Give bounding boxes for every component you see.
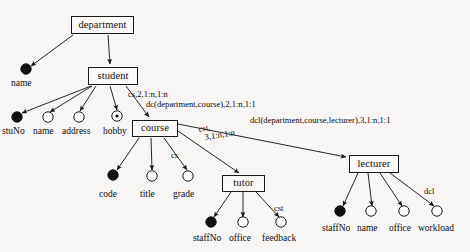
attr-node-course-code [108, 170, 118, 180]
attr-node-dept-name [21, 64, 31, 74]
attribute-nodes [12, 64, 442, 227]
attribute-label-student-hobby: hobby [103, 127, 127, 137]
entity-lecturer[interactable]: lecturer [349, 155, 399, 173]
edge-label-dcl-workload: dcl [424, 187, 434, 196]
relationship-label-dcl: dcl(department,course,lecturer),3,1:n,1:… [250, 116, 391, 125]
attribute-label-lect-workload: workload [418, 224, 454, 234]
attr-node-tutor-office [238, 217, 248, 227]
relationship-label-cs: cs,2,1:n,1:n [128, 90, 168, 99]
edge-course-code [117, 138, 139, 170]
attribute-label-lect-office: office [389, 224, 411, 234]
attr-node-course-title [147, 171, 157, 181]
edge-course-title [151, 138, 152, 170]
relationship-label-dc: dc(department,course),2,1:n,1:1 [146, 100, 256, 109]
edge-department-student [108, 35, 110, 64]
attribute-label-course-title: title [140, 190, 155, 200]
entity-tutor[interactable]: tutor [222, 175, 265, 192]
attr-node-course-grade [183, 171, 193, 181]
attribute-label-student-stuno: stuNo [2, 127, 25, 137]
attr-node-lect-name [366, 206, 376, 216]
attribute-label-tutor-feedback: feedback [262, 234, 296, 244]
edge-label-cs-grade: cs [171, 151, 178, 160]
edge-lecturer-staffno [343, 173, 358, 206]
attr-node-lect-staffno [335, 206, 345, 216]
edge-tutor-staffno [214, 192, 231, 217]
attr-node-tutor-staffno [206, 217, 216, 227]
entity-course[interactable]: course [132, 120, 178, 137]
entity-tutor-label: tutor [233, 178, 253, 189]
er-diagram-canvas: department student course tutor lecturer… [0, 0, 470, 252]
edge-student-stuno [22, 86, 91, 113]
attribute-label-tutor-office: office [229, 234, 251, 244]
attr-node-student-hobby-dot [115, 114, 118, 117]
edge-lecturer-office [380, 173, 402, 206]
attr-node-lect-workload [432, 206, 442, 216]
attr-node-tutor-feedback [276, 217, 286, 227]
edge-student-hobby [110, 86, 117, 110]
attr-node-student-name [43, 112, 53, 122]
entity-department[interactable]: department [71, 16, 134, 34]
attribute-label-lect-name: name [357, 224, 378, 234]
attribute-label-dept-name: name [11, 79, 32, 89]
attribute-label-tutor-staffno: staffNo [193, 234, 221, 244]
attribute-label-student-address: address [62, 127, 91, 137]
entity-lecturer-label: lecturer [358, 159, 391, 170]
attribute-label-lect-staffno: staffNo [322, 224, 350, 234]
entity-department-label: department [78, 20, 126, 31]
edge-lecturer-name [368, 173, 372, 206]
attribute-label-course-grade: grade [173, 190, 194, 200]
entity-student-label: student [97, 71, 128, 82]
attr-node-student-stuno [12, 112, 22, 122]
attr-node-lect-office [399, 206, 409, 216]
attr-node-student-address [74, 112, 84, 122]
edge-student-name [50, 86, 92, 112]
attribute-label-course-code: code [99, 190, 117, 200]
entity-course-label: course [141, 123, 169, 134]
edge-department-name [31, 35, 73, 66]
entity-student[interactable]: student [88, 67, 138, 85]
attribute-label-student-name: name [33, 127, 54, 137]
edge-label-cst-feedback: cst [274, 204, 283, 213]
